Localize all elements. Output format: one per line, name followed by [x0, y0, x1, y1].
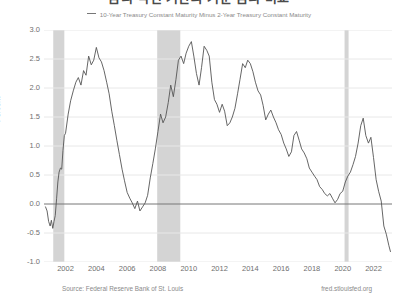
x-axis-ticks: 2002200420062008201020122014201620182020… [44, 264, 392, 276]
source-url: fred.stlouisfed.org [321, 285, 372, 292]
page-title: 금리 역전 기간과 기준 금리 비교 [0, 0, 398, 5]
x-axis-tick-label: 2006 [119, 264, 136, 274]
x-axis-tick-label: 2022 [365, 264, 382, 274]
y-axis-tick-label: 0.5 [0, 171, 40, 179]
y-axis-tick-label: -0.5 [0, 229, 40, 237]
y-axis-tick-label: 3.0 [0, 26, 40, 34]
source-text: Source: Federal Reserve Bank of St. Loui… [62, 285, 183, 292]
series-plot [44, 30, 392, 262]
y-axis-tick-label: 2.0 [0, 84, 40, 92]
y-axis-ticks: 3.02.52.01.51.00.50.0-0.5-1.0 [0, 30, 40, 262]
chart-footer: Source: Federal Reserve Bank of St. Loui… [0, 285, 398, 297]
x-axis-tick-label: 2018 [304, 264, 321, 274]
x-axis-tick-label: 2008 [150, 264, 167, 274]
x-axis-tick-label: 2004 [88, 264, 105, 274]
y-axis-tick-label: 0.0 [0, 200, 40, 208]
fred-chart: 금리 역전 기간과 기준 금리 비교 10-Year Treasury Cons… [0, 0, 398, 299]
plot-area [44, 30, 392, 262]
y-axis-title: Percent [0, 96, 1, 122]
legend-label: 10-Year Treasury Constant Maturity Minus… [100, 11, 311, 18]
data-line [46, 42, 391, 252]
x-axis-tick-label: 2014 [242, 264, 259, 274]
y-axis-tick-label: 1.0 [0, 142, 40, 150]
x-axis-tick-label: 2002 [57, 264, 74, 274]
legend-line-swatch [87, 13, 96, 14]
y-axis-tick-label: 1.5 [0, 113, 40, 121]
x-axis-tick-label: 2016 [273, 264, 290, 274]
y-axis-tick-label: 2.5 [0, 55, 40, 63]
x-axis-tick-label: 2020 [334, 264, 351, 274]
chart-legend: 10-Year Treasury Constant Maturity Minus… [0, 9, 398, 19]
y-axis-tick-label: -1.0 [0, 258, 40, 266]
x-axis-tick-label: 2012 [211, 264, 228, 274]
x-axis-tick-label: 2010 [180, 264, 197, 274]
